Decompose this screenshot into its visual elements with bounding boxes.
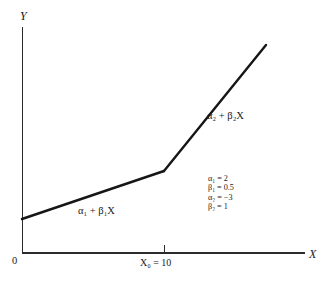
plot-area	[0, 0, 330, 284]
segment-1-equation-label: α₁ + β₁X	[78, 206, 115, 217]
origin-label: 0	[12, 256, 17, 267]
regression-segment-2	[164, 45, 266, 171]
y-axis-label: Y	[20, 10, 27, 22]
parameter-alpha1: α₁ = 2	[208, 174, 234, 183]
parameter-beta2: β₂ = 1	[208, 202, 234, 211]
parameter-alpha2: α₂ = −3	[208, 193, 234, 202]
x0-tick-label: X₀ = 10	[140, 258, 171, 268]
chart-figure: Y X 0 X₀ = 10 α₁ + β₁X α₂ + β₂X α₁ = 2 β…	[0, 0, 330, 284]
segment-2-equation-label: α₂ + β₂X	[207, 111, 244, 122]
parameter-beta1: β₁ = 0.5	[208, 183, 234, 192]
parameter-list: α₁ = 2 β₁ = 0.5 α₂ = −3 β₂ = 1	[208, 174, 234, 212]
x-axis-label: X	[309, 248, 317, 260]
